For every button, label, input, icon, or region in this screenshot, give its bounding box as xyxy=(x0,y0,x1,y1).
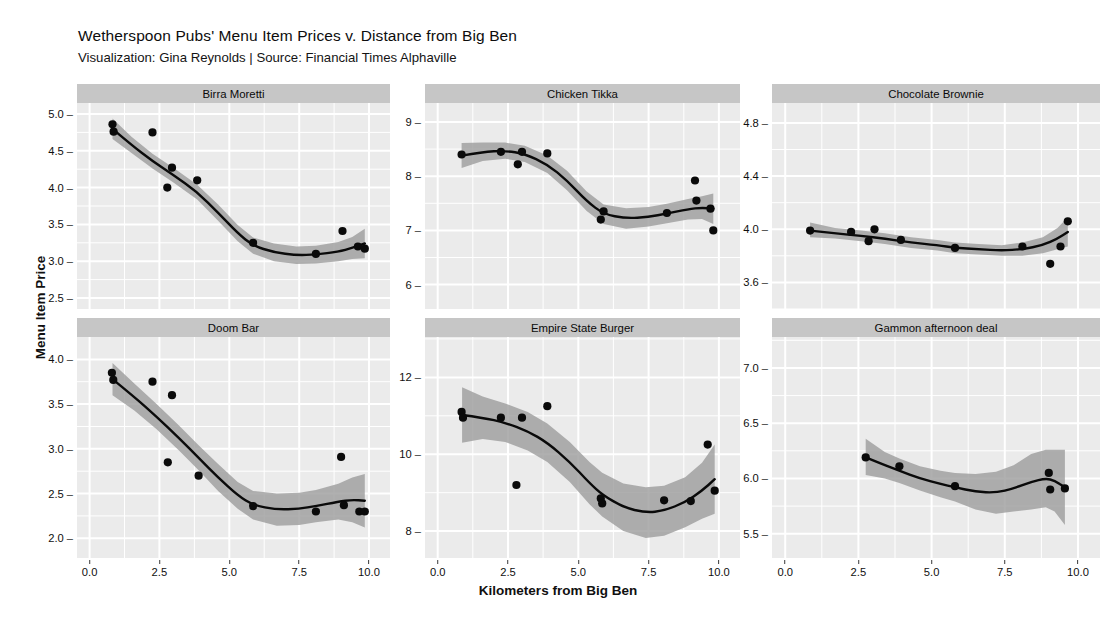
y-tick-mark: – xyxy=(67,398,73,410)
y-tick-mark: – xyxy=(415,170,421,182)
y-tick-mark: – xyxy=(762,170,768,182)
y-tick-label: 5.5– xyxy=(743,528,768,540)
y-tick-mark: – xyxy=(67,443,73,455)
y-tick-mark: – xyxy=(67,353,73,365)
x-tick-label: 7.5 xyxy=(641,560,657,578)
y-tick-text: 12 xyxy=(399,371,411,383)
y-tick-label: 4.0– xyxy=(48,182,73,194)
x-tick-mark xyxy=(858,560,859,564)
x-tick-label: 2.5 xyxy=(152,560,168,578)
facet-strip-label: Birra Moretti xyxy=(202,88,264,100)
y-tick-text: 2.0 xyxy=(48,532,64,544)
y-tick-mark: – xyxy=(415,279,421,291)
y-tick-text: 8 xyxy=(406,170,412,182)
y-tick-mark: – xyxy=(415,448,421,460)
y-tick-mark: – xyxy=(762,528,768,540)
x-tick-mark xyxy=(299,560,300,564)
facet-plot-area xyxy=(77,337,390,558)
x-tick-mark xyxy=(437,560,438,564)
y-tick-text: 4.0 xyxy=(743,223,759,235)
x-tick-label: 7.5 xyxy=(291,560,307,578)
x-tick-mark xyxy=(718,560,719,564)
y-tick-label: 8– xyxy=(406,525,421,537)
y-tick-mark: – xyxy=(67,532,73,544)
facet-strip-label: Chocolate Brownie xyxy=(888,88,984,100)
facet-panel: Chocolate Brownie xyxy=(772,84,1100,309)
x-tick-mark xyxy=(159,560,160,564)
x-tick-mark xyxy=(578,560,579,564)
y-tick-label: 3.6– xyxy=(743,276,768,288)
y-tick-mark: – xyxy=(762,117,768,129)
facet-plot-area xyxy=(772,103,1100,309)
facet-strip: Chicken Tikka xyxy=(425,84,740,103)
x-tick-label: 0.0 xyxy=(430,560,446,578)
y-tick-text: 6 xyxy=(406,279,412,291)
y-axis-ticks: 3.6–4.0–4.4–4.8– xyxy=(728,103,768,309)
x-axis-ticks: 0.02.55.07.510.0 xyxy=(77,560,390,580)
y-tick-mark: – xyxy=(762,362,768,374)
y-tick-mark: – xyxy=(67,108,73,120)
y-tick-mark: – xyxy=(67,488,73,500)
y-tick-label: 2.5– xyxy=(48,292,73,304)
x-tick-mark xyxy=(229,560,230,564)
y-tick-text: 7.0 xyxy=(743,362,759,374)
x-tick-label: 5.0 xyxy=(222,560,238,578)
y-tick-label: 4.0– xyxy=(743,223,768,235)
facet-plot-area xyxy=(425,337,740,558)
y-tick-mark: – xyxy=(67,255,73,267)
facet-strip: Chocolate Brownie xyxy=(772,84,1100,103)
facet-strip: Gammon afternoon deal xyxy=(772,318,1100,337)
chart-title: Wetherspoon Pubs' Menu Item Prices v. Di… xyxy=(78,27,517,45)
facet-strip: Doom Bar xyxy=(77,318,390,337)
facet-plot-area xyxy=(425,103,740,309)
x-tick-label: 10.0 xyxy=(708,560,730,578)
y-tick-label: 3.5– xyxy=(48,218,73,230)
y-tick-label: 6– xyxy=(406,279,421,291)
y-tick-label: 2.5– xyxy=(48,488,73,500)
y-tick-text: 2.5 xyxy=(48,488,64,500)
y-tick-text: 8 xyxy=(406,525,412,537)
y-tick-text: 5.0 xyxy=(48,108,64,120)
y-tick-label: 9– xyxy=(406,116,421,128)
y-tick-mark: – xyxy=(415,116,421,128)
facet-strip-label: Chicken Tikka xyxy=(547,88,618,100)
y-tick-label: 4.0– xyxy=(48,353,73,365)
y-tick-label: 7.0– xyxy=(743,362,768,374)
facet-strip-label: Doom Bar xyxy=(208,322,259,334)
y-tick-label: 5.0– xyxy=(48,108,73,120)
y-tick-label: 3.5– xyxy=(48,398,73,410)
y-tick-text: 9 xyxy=(406,116,412,128)
y-tick-text: 3.6 xyxy=(743,276,759,288)
y-tick-text: 4.4 xyxy=(743,170,759,182)
y-tick-label: 8– xyxy=(406,170,421,182)
y-tick-label: 12– xyxy=(399,371,421,383)
y-tick-mark: – xyxy=(67,182,73,194)
x-tick-mark xyxy=(508,560,509,564)
facet-strip-label: Empire State Burger xyxy=(531,322,634,334)
y-tick-text: 7 xyxy=(406,224,412,236)
x-tick-mark xyxy=(648,560,649,564)
y-tick-text: 4.5 xyxy=(48,145,64,157)
y-tick-text: 3.0 xyxy=(48,255,64,267)
facet-strip-label: Gammon afternoon deal xyxy=(875,322,998,334)
x-tick-label: 10.0 xyxy=(1067,560,1089,578)
y-tick-mark: – xyxy=(762,223,768,235)
x-tick-mark xyxy=(89,560,90,564)
x-tick-label: 7.5 xyxy=(997,560,1013,578)
chart-root: Wetherspoon Pubs' Menu Item Prices v. Di… xyxy=(0,0,1116,629)
chart-subtitle: Visualization: Gina Reynolds | Source: F… xyxy=(78,50,456,65)
x-axis-ticks: 0.02.55.07.510.0 xyxy=(425,560,740,580)
x-tick-label: 5.0 xyxy=(571,560,587,578)
facet-panel: Gammon afternoon deal xyxy=(772,318,1100,558)
y-tick-mark: – xyxy=(762,417,768,429)
y-tick-label: 3.0– xyxy=(48,255,73,267)
x-tick-label: 0.0 xyxy=(82,560,98,578)
x-tick-label: 2.5 xyxy=(851,560,867,578)
y-tick-text: 2.5 xyxy=(48,292,64,304)
y-tick-label: 10– xyxy=(399,448,421,460)
y-tick-text: 6.5 xyxy=(743,417,759,429)
y-axis-ticks: 5.5–6.0–6.5–7.0– xyxy=(728,337,768,558)
x-tick-mark xyxy=(369,560,370,564)
x-tick-mark xyxy=(1078,560,1079,564)
y-tick-text: 4.0 xyxy=(48,353,64,365)
